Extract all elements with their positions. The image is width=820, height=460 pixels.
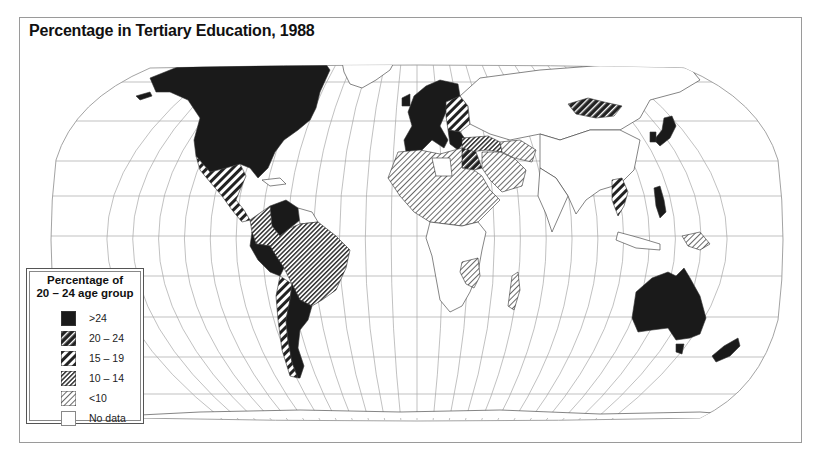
swatch-empty-icon xyxy=(61,411,76,426)
legend-label: 20 – 24 xyxy=(89,332,124,344)
region-madagascar xyxy=(508,272,520,310)
swatch-dense-hatch-icon xyxy=(61,331,76,346)
legend-item-gt24: >24 xyxy=(27,311,143,327)
legend-item-no-data: No data xyxy=(27,411,143,427)
legend-item-lt10: <10 xyxy=(27,391,143,407)
legend-item-10-14: 10 – 14 xyxy=(27,371,143,387)
swatch-thick-hatch-icon xyxy=(61,351,76,366)
legend-title-line2: 20 – 24 age group xyxy=(27,287,143,300)
legend-label: No data xyxy=(89,412,126,424)
region-new-zealand xyxy=(712,338,740,362)
legend-label: 15 – 19 xyxy=(89,352,124,364)
legend-title-line1: Percentage of xyxy=(27,274,143,287)
region-thailand xyxy=(612,178,628,216)
map-title: Percentage in Tertiary Education, 1988 xyxy=(29,22,315,40)
legend-label: 10 – 14 xyxy=(89,372,124,384)
legend: Percentage of 20 – 24 age group >24 20 –… xyxy=(26,268,144,424)
legend-label: >24 xyxy=(89,312,107,324)
region-australia xyxy=(632,268,706,340)
region-north-america xyxy=(150,56,330,178)
legend-item-20-24: 20 – 24 xyxy=(27,331,143,347)
region-japan xyxy=(654,116,676,146)
region-korea xyxy=(650,132,656,142)
legend-item-15-19: 15 – 19 xyxy=(27,351,143,367)
region-indonesia xyxy=(682,232,710,250)
region-egypt xyxy=(462,148,482,170)
swatch-solid-icon xyxy=(61,311,76,326)
swatch-light-hatch-icon xyxy=(61,391,76,406)
region-philippines xyxy=(654,186,666,218)
swatch-fine-hatch-icon xyxy=(61,371,76,386)
legend-label: <10 xyxy=(89,392,107,404)
legend-title: Percentage of 20 – 24 age group xyxy=(27,274,143,300)
region-antarctica xyxy=(80,410,780,418)
